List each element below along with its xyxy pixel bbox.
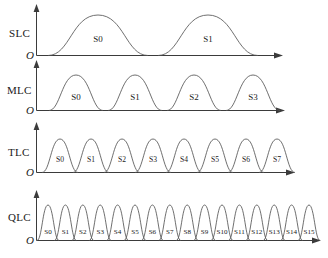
origin-label-tlc: O: [26, 166, 34, 178]
state-label: S13: [269, 228, 280, 236]
threshold-voltage-distribution-figure: SLC O S0 S1 MLC O: [0, 0, 328, 258]
state-label: S4: [180, 155, 188, 164]
caption-strip: [0, 250, 328, 258]
panel-mlc: MLC O S0 S1 S2 S3: [7, 60, 285, 116]
state-label: S14: [286, 228, 297, 236]
state-label: S0: [71, 92, 81, 102]
curve-group-slc: [48, 15, 258, 56]
state-label: S12: [251, 228, 262, 236]
origin-label-slc: O: [26, 49, 34, 61]
state-label: S5: [131, 228, 139, 236]
y-axis-arrow-mlc: [34, 60, 40, 68]
state-label: S4: [114, 228, 122, 236]
state-label: S0: [56, 155, 64, 164]
state-label: S7: [273, 155, 281, 164]
x-axis-arrow-mlc: [276, 108, 285, 114]
y-axis-arrow-slc: [34, 4, 40, 12]
state-label: S1: [203, 34, 213, 44]
y-axis-arrow-qlc: [34, 190, 40, 198]
state-label: S1: [62, 228, 70, 236]
state-label: S1: [130, 92, 140, 102]
origin-label-mlc: O: [26, 104, 34, 116]
panel-tlc: TLC O S0 S1 S2 S3 S4 S5 S6 S7: [8, 122, 295, 178]
y-axis-arrow-tlc: [34, 122, 40, 130]
figure-canvas: SLC O S0 S1 MLC O: [0, 0, 328, 258]
state-label: S8: [183, 228, 191, 236]
state-label: S5: [211, 155, 219, 164]
state-label: S3: [96, 228, 104, 236]
row-label-slc: SLC: [9, 27, 30, 39]
state-label: S0: [93, 34, 103, 44]
origin-label-qlc: O: [26, 234, 34, 246]
state-label: S2: [118, 155, 126, 164]
state-label: S3: [248, 92, 258, 102]
state-label: S7: [166, 228, 174, 236]
row-label-tlc: TLC: [8, 146, 30, 158]
state-label: S10: [216, 228, 227, 236]
panel-slc: SLC O S0 S1: [9, 4, 283, 61]
curve-group-mlc: [49, 75, 280, 111]
state-label: S2: [189, 92, 199, 102]
state-label: S2: [79, 228, 87, 236]
state-label: S15: [303, 228, 314, 236]
state-label: S1: [87, 155, 95, 164]
state-label: S0: [44, 228, 52, 236]
state-label: S6: [242, 155, 250, 164]
state-label: S6: [149, 228, 157, 236]
x-axis-arrow-slc: [274, 53, 283, 59]
state-label: S3: [149, 155, 157, 164]
state-label: S9: [201, 228, 209, 236]
state-label: S11: [234, 228, 245, 236]
row-label-mlc: MLC: [7, 84, 32, 96]
panel-qlc: QLC O: [8, 190, 321, 246]
row-label-qlc: QLC: [8, 211, 31, 223]
curve-group-tlc: [42, 139, 295, 173]
